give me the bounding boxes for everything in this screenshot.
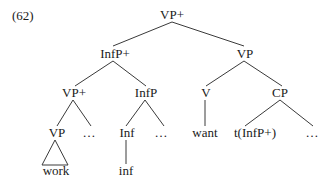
node-trace: t(InfP+) xyxy=(234,126,276,140)
node-root-vp-plus: VP+ xyxy=(160,8,184,22)
node-inf: Inf xyxy=(119,126,134,140)
node-cp: CP xyxy=(272,86,288,100)
node-ellipsis-3: … xyxy=(306,126,319,140)
node-v: V xyxy=(201,86,210,100)
node-infp-plus: InfP+ xyxy=(100,47,130,61)
node-want: want xyxy=(192,126,217,140)
node-ellipsis-2: … xyxy=(155,126,168,140)
node-infp: InfP xyxy=(135,86,157,100)
syntax-tree: (62) VP+ InfP+ VP VP+ InfP V CP VP … Inf… xyxy=(0,0,333,187)
node-vp-plus-lower: VP+ xyxy=(62,86,86,100)
node-ellipsis-1: … xyxy=(83,126,96,140)
node-vp: VP xyxy=(237,47,254,61)
node-vp-inner: VP xyxy=(49,126,66,140)
node-inf-leaf: inf xyxy=(119,164,133,178)
example-number: (62) xyxy=(12,9,34,23)
node-work: work xyxy=(43,164,70,178)
